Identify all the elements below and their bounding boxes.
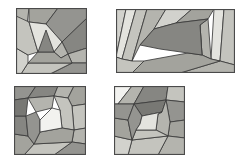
panel-bottom-right-strip-right-lower (168, 120, 185, 138)
panel-top-left (16, 8, 87, 74)
panel-bottom-right-canvas (114, 86, 185, 155)
panel-top-left-canvas (16, 8, 87, 74)
panel-bottom-right (114, 86, 185, 155)
panel-top-right-canvas (116, 9, 235, 73)
panel-bottom-left (14, 86, 86, 155)
figure-root (0, 0, 245, 162)
panel-bottom-left-canvas (14, 86, 86, 155)
panel-top-right (116, 9, 235, 73)
panel-bottom-left-core-bright (40, 108, 62, 132)
panel-bottom-right-corner-top-right (166, 86, 185, 102)
panel-bottom-left-strip-left-top (14, 98, 28, 116)
